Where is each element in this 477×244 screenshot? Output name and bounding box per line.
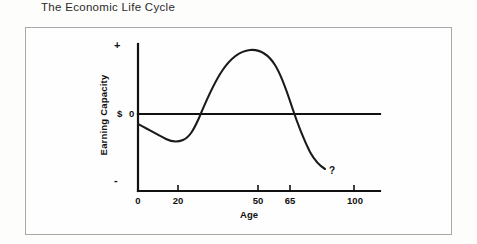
figure-frame	[25, 27, 452, 235]
x-tick-label-0: 0	[135, 195, 140, 206]
curve-uncertainty-annotation: ?	[329, 165, 335, 176]
x-tick-label-20: 20	[173, 195, 184, 206]
y-axis-zero-label: 0	[129, 109, 134, 119]
page-title: The Economic Life Cycle	[41, 1, 175, 13]
x-tick-label-100: 100	[347, 195, 363, 206]
y-axis-currency-symbol: $	[117, 109, 122, 119]
y-axis-positive-mark: +	[114, 40, 120, 51]
x-axis-title: Age	[240, 209, 258, 220]
x-tick-label-50: 50	[253, 195, 264, 206]
y-axis-negative-mark: -	[114, 175, 118, 186]
figure-page: The Economic Life Cycle + $ 0 - Earning …	[0, 0, 477, 244]
x-tick-label-65: 65	[285, 195, 296, 206]
y-axis-title: Earning Capacity	[98, 75, 109, 156]
